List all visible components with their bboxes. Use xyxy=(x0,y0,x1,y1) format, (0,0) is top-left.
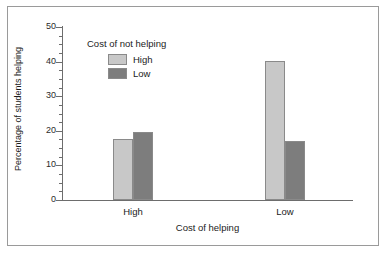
x-axis-title: Cost of helping xyxy=(62,222,353,233)
y-tick-label: 50 xyxy=(34,22,56,31)
bar xyxy=(265,61,285,200)
y-tick-minor xyxy=(59,105,62,106)
legend-label: Low xyxy=(133,68,150,79)
y-tick-minor xyxy=(59,114,62,115)
y-tick-minor xyxy=(59,148,62,149)
bar xyxy=(133,132,153,200)
y-tick-minor xyxy=(59,44,62,45)
y-tick-major xyxy=(56,62,62,63)
y-tick-label: 40 xyxy=(34,57,56,66)
legend-swatch-icon xyxy=(108,68,127,79)
y-tick-major xyxy=(56,27,62,28)
y-tick-minor xyxy=(59,36,62,37)
x-tick-label: Low xyxy=(255,206,315,217)
bar xyxy=(113,139,133,200)
legend-item: Low xyxy=(86,68,216,79)
y-axis-title: Percentage of students helping xyxy=(13,19,23,199)
y-tick-minor xyxy=(59,88,62,89)
legend: Cost of not helping HighLow xyxy=(86,38,216,82)
y-tick-minor xyxy=(59,157,62,158)
y-tick-minor xyxy=(59,70,62,71)
y-tick-label: 10 xyxy=(34,160,56,169)
y-tick-major xyxy=(56,200,62,201)
y-tick-label: 0 xyxy=(34,195,56,204)
y-tick-minor xyxy=(59,53,62,54)
y-tick-minor xyxy=(59,122,62,123)
y-tick-label: 20 xyxy=(34,126,56,135)
legend-items: HighLow xyxy=(86,54,216,79)
x-tick-label: High xyxy=(103,206,163,217)
y-tick-label: 30 xyxy=(34,91,56,100)
y-tick-minor xyxy=(59,191,62,192)
bar xyxy=(285,141,305,200)
y-tick-minor xyxy=(59,139,62,140)
y-tick-major xyxy=(56,131,62,132)
y-axis-tick-labels: 01020304050 xyxy=(30,27,56,200)
y-tick-major xyxy=(56,165,62,166)
y-tick-minor xyxy=(59,174,62,175)
y-tick-minor xyxy=(59,183,62,184)
legend-title: Cost of not helping xyxy=(86,38,216,49)
legend-item: High xyxy=(86,54,216,65)
y-tick-minor xyxy=(59,79,62,80)
y-tick-major xyxy=(56,96,62,97)
figure-container: 01020304050 Percentage of students helpi… xyxy=(0,0,388,255)
legend-swatch-icon xyxy=(108,54,127,65)
legend-label: High xyxy=(133,54,153,65)
x-axis-line xyxy=(62,200,353,201)
